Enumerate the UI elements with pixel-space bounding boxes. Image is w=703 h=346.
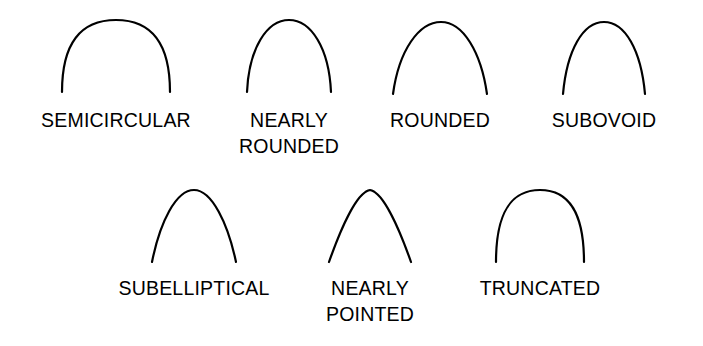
specimen-label-truncated: TRUNCATED [480, 276, 601, 302]
leaf-apex-shape-figure: SEMICIRCULAR NEARLY ROUNDED ROUNDED SUBO… [0, 0, 703, 346]
specimen-nearly-pointed: NEARLY POINTED [296, 182, 444, 328]
truncated-arch-path [496, 190, 584, 262]
truncated-arch-icon [486, 182, 594, 268]
subelliptical-arch-path [152, 190, 236, 262]
semicircular-arch-path [62, 20, 170, 92]
nearly-rounded-arch-path [247, 20, 331, 92]
specimen-semicircular: SEMICIRCULAR [18, 14, 214, 134]
subelliptical-arch-icon [142, 182, 246, 268]
specimen-truncated: TRUNCATED [452, 182, 628, 302]
specimen-label-subelliptical: SUBELLIPTICAL [118, 276, 269, 302]
rounded-arch-path [393, 22, 487, 94]
specimen-nearly-rounded: NEARLY ROUNDED [216, 14, 362, 160]
specimen-subelliptical: SUBELLIPTICAL [96, 182, 292, 302]
specimen-label-subovoid: SUBOVOID [552, 108, 657, 134]
semicircular-arch-icon [52, 14, 180, 100]
specimen-label-semicircular: SEMICIRCULAR [41, 108, 191, 134]
subovoid-arch-path [563, 22, 645, 94]
specimen-rounded: ROUNDED [370, 14, 510, 134]
specimen-label-nearly-rounded: NEARLY ROUNDED [239, 108, 339, 160]
nearly-rounded-arch-icon [237, 14, 341, 100]
specimen-label-nearly-pointed: NEARLY POINTED [326, 276, 414, 328]
nearly-pointed-arch-path [329, 190, 411, 262]
specimen-label-rounded: ROUNDED [390, 108, 490, 134]
specimen-subovoid: SUBOVOID [516, 14, 692, 134]
subovoid-arch-icon [551, 14, 657, 100]
rounded-arch-icon [385, 14, 495, 100]
nearly-pointed-arch-icon [319, 182, 421, 268]
